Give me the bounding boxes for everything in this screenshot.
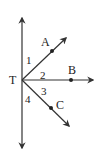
point-label-a: A: [41, 35, 50, 49]
angle-label-3: 3: [41, 85, 47, 97]
angle-label-2: 2: [40, 69, 46, 81]
vertex-label-t: T: [9, 73, 17, 87]
point-b-dot: [69, 78, 73, 82]
angle-label-1: 1: [26, 54, 32, 66]
geometry-diagram: T A B C 1 2 3 4: [0, 0, 99, 161]
point-label-b: B: [68, 63, 76, 77]
angle-label-4: 4: [25, 93, 31, 105]
point-a-dot: [50, 49, 54, 53]
point-label-c: C: [56, 98, 64, 112]
point-c-dot: [49, 106, 53, 110]
